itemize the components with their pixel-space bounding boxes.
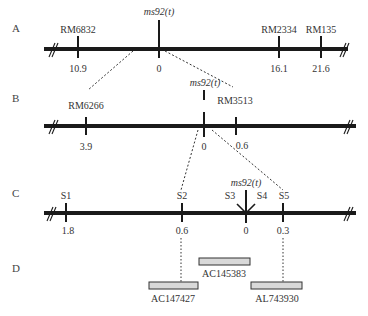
marker-distance: 0	[244, 225, 249, 236]
marker-distance: 0.6	[236, 140, 249, 151]
panel-label-c: C	[12, 187, 19, 199]
marker-name: S4	[257, 190, 268, 201]
clone-label: AC145383	[202, 268, 246, 279]
clone-label: AL743930	[255, 293, 298, 304]
marker-name: S3	[225, 190, 236, 201]
marker-distance: 0.6	[176, 225, 189, 236]
marker-name: RM2334	[261, 24, 297, 35]
marker-distance: 0	[157, 63, 162, 74]
gene-label: ms92(t)	[144, 6, 175, 18]
marker-name: S2	[177, 190, 188, 201]
genetic-map-diagram: A B C D ms92(t) RM6832 RM2334 RM135 10.9…	[0, 0, 368, 316]
marker-name: RM6832	[60, 24, 96, 35]
marker-distance: 0	[202, 141, 207, 152]
marker-distance: 21.6	[312, 63, 330, 74]
zoom-connector	[88, 51, 133, 90]
gene-label: ms92(t)	[231, 177, 262, 189]
clone-bar-al743930	[251, 282, 302, 289]
clone-bar-ac147427	[149, 282, 198, 289]
marker-distance: 16.1	[270, 63, 288, 74]
marker-distance: 10.9	[69, 63, 87, 74]
panel-label-d: D	[12, 262, 20, 274]
zoom-connector	[181, 130, 198, 190]
marker-name: RM135	[306, 24, 337, 35]
marker-name: S5	[279, 190, 290, 201]
panel-label-b: B	[12, 92, 19, 104]
marker-name: S1	[61, 190, 72, 201]
clone-label: AC147427	[151, 293, 195, 304]
chromosome-c	[44, 190, 356, 223]
gene-label: ms92(t)	[190, 77, 221, 89]
marker-distance: 1.8	[62, 225, 75, 236]
panel-label-a: A	[12, 22, 20, 34]
clone-bar-ac145383	[199, 258, 250, 265]
marker-name: RM3513	[217, 95, 253, 106]
marker-distance: 3.9	[80, 141, 93, 152]
marker-name: RM6266	[68, 100, 104, 111]
marker-distance: 0.3	[277, 225, 290, 236]
chromosome-b	[44, 112, 356, 137]
